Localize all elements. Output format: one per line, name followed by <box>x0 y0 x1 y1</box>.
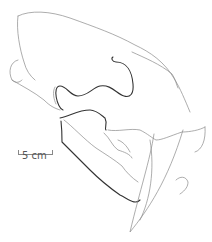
saber-tooth <box>130 130 183 232</box>
cranium-outline <box>18 12 190 112</box>
mandible <box>61 121 140 202</box>
scale-bar-label: 5 cm <box>22 150 47 161</box>
occipital-bump <box>10 60 22 82</box>
jaw-line <box>60 110 106 130</box>
zygomatic-arch <box>56 57 133 110</box>
skull-drawing <box>0 0 212 242</box>
